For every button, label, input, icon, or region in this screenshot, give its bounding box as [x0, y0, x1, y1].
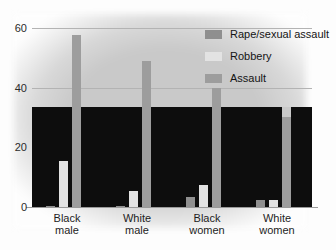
- legend-item: Assault: [205, 70, 329, 86]
- x-axis-label-line: women: [176, 224, 238, 236]
- x-axis-label-line: Black: [36, 212, 98, 224]
- y-tick-label-40: 40: [15, 82, 27, 94]
- x-axis-label-line: Black: [176, 212, 238, 224]
- bar: [59, 161, 68, 207]
- x-axis-label-1: Blackmale: [36, 212, 98, 236]
- legend-swatch-icon: [205, 30, 222, 39]
- x-axis-label-line: male: [36, 224, 98, 236]
- x-axis-label-4: Whitewomen: [246, 212, 308, 236]
- x-axis-label-line: women: [246, 224, 308, 236]
- cropped-header-text: [0, 0, 336, 9]
- bar: [129, 191, 138, 207]
- x-axis-label-2: Whitemale: [106, 212, 168, 236]
- chart-figure: 0204060 BlackmaleWhitemaleBlackwomenWhit…: [0, 0, 336, 250]
- bar: [256, 200, 265, 207]
- bar: [269, 200, 278, 207]
- bar: [186, 197, 195, 207]
- bar: [72, 35, 81, 207]
- legend-item: Rape/sexual assault: [205, 26, 329, 42]
- bar: [282, 117, 291, 207]
- bar: [199, 185, 208, 207]
- x-axis-label-3: Blackwomen: [176, 212, 238, 236]
- legend-label: Robbery: [230, 50, 272, 62]
- legend-label: Assault: [230, 72, 266, 84]
- legend-label: Rape/sexual assault: [230, 28, 329, 40]
- bar-group: [32, 22, 102, 207]
- y-tick-label-20: 20: [15, 141, 27, 153]
- gridline-0: [26, 207, 318, 208]
- bar-group: [102, 22, 172, 207]
- bar: [212, 88, 221, 207]
- legend-item: Robbery: [205, 48, 329, 64]
- bar: [116, 206, 125, 207]
- x-axis-label-line: male: [106, 224, 168, 236]
- bar: [142, 61, 151, 207]
- legend-swatch-icon: [205, 52, 222, 61]
- bar: [46, 206, 55, 207]
- legend-swatch-icon: [205, 74, 222, 83]
- x-axis-category-labels: BlackmaleWhitemaleBlackwomenWhitewomen: [32, 210, 312, 244]
- chart-legend: Rape/sexual assaultRobberyAssault: [205, 26, 329, 92]
- x-axis-label-line: White: [246, 212, 308, 224]
- x-axis-label-line: White: [106, 212, 168, 224]
- y-tick-label-0: 0: [21, 201, 27, 213]
- y-tick-label-60: 60: [15, 22, 27, 34]
